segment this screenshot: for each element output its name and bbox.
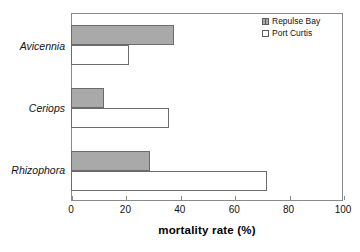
bar-ceriops-repulse-bay — [71, 88, 104, 108]
mortality-rate-bar-chart: Avicennia Ceriops Rhizophora mortality r… — [0, 0, 360, 252]
x-tick-label: 60 — [229, 204, 240, 215]
open-square-icon — [262, 30, 269, 37]
x-tick-label: 40 — [174, 204, 185, 215]
x-axis-title: mortality rate (%) — [71, 224, 343, 236]
bar-ceriops-port-curtis — [71, 108, 169, 128]
bar-rhizophora-repulse-bay — [71, 151, 150, 171]
legend-item-repulse-bay: Repulse Bay — [262, 16, 335, 27]
x-tick-label: 80 — [283, 204, 294, 215]
bar-avicennia-port-curtis — [71, 45, 129, 65]
bar-rhizophora-port-curtis — [71, 171, 267, 191]
x-tick-label: 100 — [335, 204, 352, 215]
legend-label-repulse-bay: Repulse Bay — [272, 17, 320, 26]
legend-item-port-curtis: Port Curtis — [262, 28, 335, 39]
filled-square-icon — [262, 18, 269, 25]
chart-legend: Repulse Bay Port Curtis — [259, 15, 337, 42]
x-tick-label: 20 — [120, 204, 131, 215]
legend-label-port-curtis: Port Curtis — [272, 29, 312, 38]
bar-avicennia-repulse-bay — [71, 25, 174, 45]
x-tick-label: 0 — [68, 204, 74, 215]
